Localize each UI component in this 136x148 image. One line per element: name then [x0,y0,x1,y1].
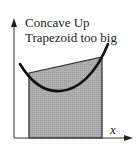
trapezoid-area [29,57,102,138]
y-axis-arrow-icon [11,18,17,27]
title-line-2: Trapezoid too big [25,30,117,46]
x-axis-arrow-icon [124,135,133,141]
x-axis-label: x [110,122,116,138]
title-line-1: Concave Up [25,15,90,31]
